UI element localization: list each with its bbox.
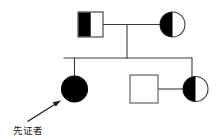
female-circle-symbol-filled (62, 76, 88, 102)
left-half-fill (160, 12, 173, 37)
proband-arrow-shaft (28, 103, 58, 122)
individual-II-2-spouse[interactable] (130, 75, 158, 103)
proband-arrow-annotation (28, 101, 62, 122)
individual-II-1-proband[interactable] (62, 76, 88, 102)
individual-I-2-mother[interactable] (160, 12, 185, 37)
left-half-fill (183, 77, 196, 102)
male-square-symbol (130, 75, 158, 103)
individual-II-3-daughter[interactable] (183, 77, 208, 102)
pedigree-chart: 先证者 (0, 0, 221, 139)
left-half-fill (79, 13, 91, 37)
proband-arrow-head (53, 101, 61, 107)
pedigree-canvas: 先证者 (0, 0, 221, 139)
proband-label: 先证者 (13, 125, 43, 136)
individual-I-1-father[interactable] (78, 12, 103, 37)
